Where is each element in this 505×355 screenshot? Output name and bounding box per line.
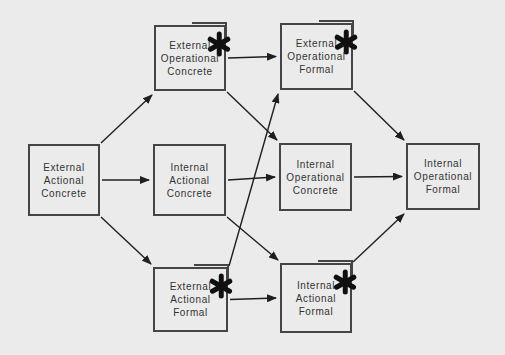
arrow-eof-to-iof (354, 91, 404, 140)
label-line: External (169, 39, 211, 52)
box-label: External Actional Concrete (30, 146, 98, 214)
diagram-canvas: External Actional Concrete External Oper… (0, 0, 505, 355)
label-line: Internal (297, 279, 335, 292)
label-line: Concrete (41, 187, 86, 200)
label-line: Operational (414, 170, 472, 183)
box-external-operational-concrete: External Operational Concrete (154, 25, 226, 91)
box-internal-operational-concrete: Internal Operational Concrete (279, 143, 352, 211)
arrow-eac-to-eoc (101, 95, 152, 143)
label-line: Formal (299, 63, 334, 76)
label-line: Actional (169, 174, 209, 187)
label-line: Operational (287, 50, 345, 63)
arrow-ioc-to-iof (354, 177, 402, 178)
box-internal-actional-formal: Internal Actional Formal (280, 263, 352, 333)
label-line: External (43, 161, 85, 174)
box-label: Internal Operational Concrete (281, 145, 350, 209)
arrow-eoc-to-eof (228, 57, 276, 59)
box-label: Internal Operational Formal (408, 145, 478, 208)
arrow-iaf-to-iof (353, 214, 404, 262)
label-line: Actional (296, 292, 336, 305)
label-line: Concrete (293, 184, 338, 197)
label-line: Formal (173, 306, 208, 319)
box-internal-operational-formal: Internal Operational Formal (406, 143, 480, 210)
box-internal-actional-concrete: Internal Actional Concrete (153, 144, 226, 216)
label-line: Actional (170, 293, 210, 306)
box-external-operational-formal: External Operational Formal (280, 23, 353, 90)
arrow-iac-to-ioc (228, 177, 275, 180)
label-line: Operational (286, 171, 344, 184)
arrow-eac-to-eaf (101, 217, 151, 264)
arrow-iac-to-iaf (227, 217, 278, 260)
label-line: Internal (170, 161, 208, 174)
arrow-eaf-to-iaf (230, 298, 276, 300)
box-external-actional-concrete: External Actional Concrete (28, 144, 100, 216)
label-line: External (170, 280, 212, 293)
label-line: Formal (299, 305, 334, 318)
box-external-actional-formal: External Actional Formal (153, 267, 228, 332)
label-line: Concrete (167, 65, 212, 78)
box-label: Internal Actional Formal (282, 265, 350, 331)
label-line: Internal (296, 158, 334, 171)
arrow-eoc-to-ioc (227, 92, 277, 140)
label-line: Operational (161, 52, 219, 65)
label-line: External (296, 37, 338, 50)
box-label: External Operational Concrete (156, 27, 224, 89)
arrow-eaf-to-eof (229, 94, 278, 266)
box-label: External Operational Formal (282, 25, 351, 88)
label-line: Formal (426, 183, 461, 196)
label-line: Actional (44, 174, 84, 187)
box-label: External Actional Formal (155, 269, 226, 330)
box-label: Internal Actional Concrete (155, 146, 224, 214)
label-line: Internal (424, 157, 462, 170)
label-line: Concrete (167, 187, 212, 200)
